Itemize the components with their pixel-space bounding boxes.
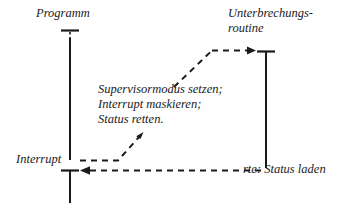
entry-arrowhead (247, 47, 256, 55)
lane-label-interrupt: Interrupt (16, 152, 61, 167)
note-line-status-retten: Status retten. (98, 112, 223, 127)
interrupt-sequence-diagram: Programm Unterbrechungs- routine Interru… (0, 0, 351, 217)
lane-label-unterbrechungsroutine: Unterbrechungs- routine (228, 6, 313, 36)
lane-label-programm: Programm (36, 6, 90, 21)
return-arrow-to-program (80, 166, 266, 174)
return-arrow-label-rte: rte: Status laden (243, 162, 326, 177)
interrupt-trigger-arrow-path (80, 137, 139, 161)
lane-programm (61, 31, 79, 161)
lane-interrupt (61, 170, 79, 203)
lane-label-unterbrechungsroutine-line2: routine (228, 21, 313, 36)
note-block-isr-prologue: Supervisormodus setzen; Interrupt maskie… (98, 82, 223, 126)
lane-label-unterbrechungsroutine-line1: Unterbrechungs- (228, 6, 313, 20)
note-line-interrupt-maskieren: Interrupt maskieren; (98, 97, 223, 112)
note-line-supervisormodus: Supervisormodus setzen; (98, 82, 223, 97)
entry-arrow-to-routine (174, 47, 256, 88)
return-arrowhead (80, 166, 90, 174)
lane-unterbrechungsroutine (257, 51, 275, 168)
interrupt-trigger-arrow (80, 132, 144, 161)
